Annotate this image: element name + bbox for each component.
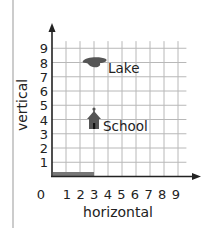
y-tick-label: 4	[40, 113, 48, 128]
x-tick-label: 1	[63, 187, 71, 202]
x-tick-label: 8	[158, 187, 166, 202]
highlight-segment	[53, 172, 94, 176]
coordinate-grid: 123456789 0123456789 vertical horizontal…	[0, 0, 212, 237]
x-tick-label: 0	[37, 187, 45, 202]
x-tick-label: 3	[90, 187, 98, 202]
x-tick-label: 4	[104, 187, 112, 202]
lake-label: Lake	[108, 60, 139, 76]
x-tick-label: 6	[131, 187, 139, 202]
y-tick-label: 3	[40, 127, 48, 142]
coordinate-grid-figure: 123456789 0123456789 vertical horizontal…	[0, 0, 212, 237]
x-tick-label: 9	[172, 187, 180, 202]
y-tick-label: 5	[40, 98, 48, 113]
school-label: School	[103, 118, 148, 134]
y-tick-label: 8	[40, 56, 48, 71]
y-tick-label: 1	[40, 155, 48, 170]
y-tick-label: 2	[40, 141, 48, 156]
y-tick-label: 7	[40, 70, 48, 85]
y-tick-label: 9	[40, 41, 48, 56]
x-axis-label: horizontal	[83, 204, 153, 220]
x-tick-label: 2	[76, 187, 84, 202]
y-axis-label: vertical	[14, 79, 30, 131]
school-icon	[87, 107, 101, 129]
y-tick-labels: 123456789	[40, 41, 48, 170]
y-axis-arrow-icon	[49, 23, 56, 32]
x-axis-arrow-icon	[192, 173, 201, 180]
y-tick-label: 6	[40, 84, 48, 99]
lake-icon	[83, 57, 107, 67]
x-tick-label: 5	[117, 187, 125, 202]
x-tick-labels: 0123456789	[37, 187, 180, 202]
x-tick-label: 7	[144, 187, 152, 202]
